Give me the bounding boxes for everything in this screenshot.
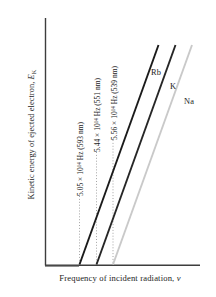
- series-label-rb: Rb: [151, 68, 161, 77]
- y-axis-title: Kinetic energy of ejected electron, EK: [27, 10, 36, 260]
- threshold-label-na: 5.56 × 1014 Hz (539 nm): [110, 66, 119, 140]
- threshold-tail-k: Hz (551 nm): [93, 78, 102, 118]
- x-axis-symbol: ν: [177, 273, 181, 283]
- threshold-mantissa-na: 5.56 × 10: [110, 111, 119, 140]
- threshold-exponent-k: 14: [93, 118, 99, 123]
- threshold-label-rb: 5.05 × 1014 Hz (593 nm): [76, 122, 85, 196]
- series-label-na: Na: [184, 97, 194, 106]
- y-axis-title-text: Kinetic energy of ejected electron,: [27, 79, 36, 199]
- series-label-k: K: [170, 82, 176, 91]
- threshold-mantissa-k: 5.44 × 10: [93, 123, 102, 152]
- series-line-na: [113, 45, 192, 265]
- series-line-k: [97, 45, 176, 265]
- photoelectric-effect-figure: Kinetic energy of ejected electron, EK F…: [0, 0, 216, 297]
- y-axis-subscript: K: [30, 70, 37, 75]
- threshold-exponent-na: 14: [110, 106, 116, 111]
- threshold-exponent-rb: 14: [76, 162, 82, 167]
- y-axis-symbol: E: [27, 74, 36, 79]
- threshold-mantissa-rb: 5.05 × 10: [76, 167, 85, 196]
- threshold-label-k: 5.44 × 1014 Hz (551 nm): [93, 78, 102, 152]
- x-axis-title-text: Frequency of incident radiation,: [59, 273, 176, 283]
- threshold-tail-na: Hz (539 nm): [110, 66, 119, 106]
- threshold-tail-rb: Hz (593 nm): [76, 122, 85, 162]
- x-axis-title: Frequency of incident radiation, ν: [30, 273, 210, 283]
